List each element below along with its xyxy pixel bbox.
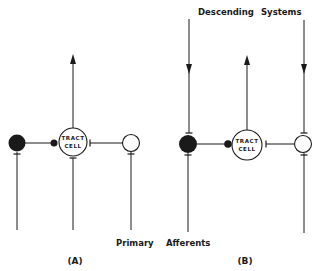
inhibitory-interneuron-b <box>179 135 197 153</box>
arrow-up-icon <box>70 54 76 64</box>
synapse-dot-a <box>51 140 58 147</box>
inhibitory-interneuron-a <box>9 135 26 152</box>
tract-cell-label-line1: TRACT <box>61 135 84 141</box>
arrow-down-icon <box>301 64 307 74</box>
arrow-down-icon <box>186 64 192 74</box>
panel-b: Descending Systems TRACT CELL (B) <box>179 7 312 266</box>
excitatory-interneuron-a <box>123 135 140 152</box>
neural-circuit-diagram: TRACT CELL (A) Descending Systems <box>0 0 318 271</box>
tract-cell-label-line2: CELL <box>238 146 255 152</box>
tract-cell-a <box>59 128 87 156</box>
descending-label: Descending <box>198 7 254 17</box>
tract-cell-label-line1: TRACT <box>235 138 258 144</box>
tract-cell-b <box>232 130 262 160</box>
panel-label-b: (B) <box>237 256 252 266</box>
tract-cell-label-line2: CELL <box>64 143 81 149</box>
primary-label: Primary <box>116 238 154 248</box>
panel-a: TRACT CELL (A) <box>9 54 140 266</box>
panel-label-a: (A) <box>67 256 82 266</box>
synapse-dot-b <box>224 140 232 148</box>
afferents-label: Afferents <box>166 238 210 248</box>
systems-label: Systems <box>261 7 301 17</box>
excitatory-interneuron-b <box>295 136 312 153</box>
arrow-up-icon <box>244 55 250 65</box>
